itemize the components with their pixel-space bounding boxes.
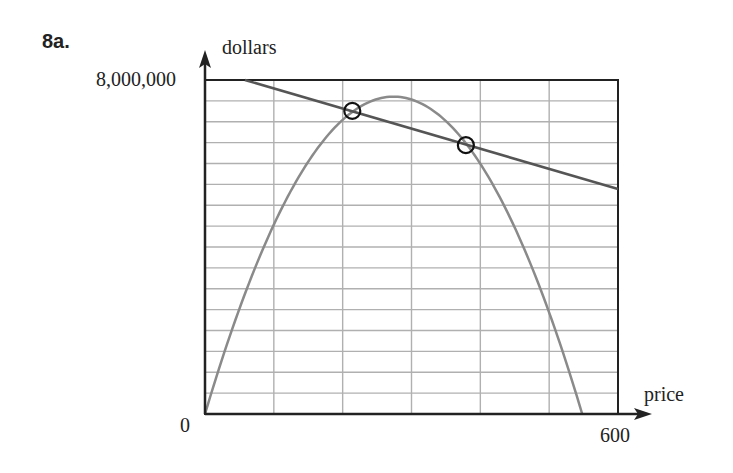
chart-plot [0, 0, 733, 473]
parabola-series-curve [205, 97, 582, 414]
grid [205, 80, 618, 414]
